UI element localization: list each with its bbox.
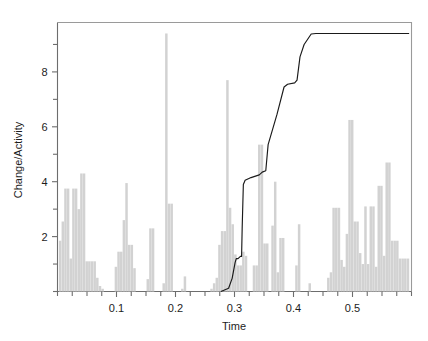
- histogram-bar: [237, 265, 239, 291]
- histogram-bar: [210, 289, 212, 292]
- histogram-bar: [184, 276, 186, 291]
- histogram-bar: [67, 189, 69, 292]
- histogram-bar: [401, 259, 403, 292]
- histogram-bar: [393, 241, 395, 292]
- x-tick-label: 0.5: [345, 302, 360, 314]
- histogram-bar: [271, 226, 273, 292]
- histogram-bar: [165, 33, 167, 291]
- histogram-bar: [327, 278, 329, 292]
- histogram-bar: [258, 145, 260, 292]
- histogram-bar: [133, 268, 135, 291]
- histogram-bar: [266, 243, 268, 291]
- histogram-bar: [245, 256, 247, 292]
- histogram-bar: [261, 145, 263, 292]
- histogram-bar: [170, 204, 172, 292]
- histogram-bar: [308, 283, 310, 291]
- histogram-bar: [372, 206, 374, 291]
- histogram-bar: [354, 222, 356, 292]
- histogram-bar: [101, 289, 103, 292]
- histogram-bar: [85, 261, 87, 291]
- y-tick-label: 6: [41, 121, 47, 133]
- bar-series: [59, 33, 409, 291]
- histogram-bar: [91, 261, 93, 291]
- histogram-bar: [162, 283, 164, 291]
- histogram-bar: [242, 252, 244, 292]
- histogram-bar: [263, 243, 265, 291]
- histogram-bar: [226, 80, 228, 291]
- x-tick-label: 0.2: [168, 302, 183, 314]
- histogram-bar: [364, 206, 366, 291]
- histogram-bar: [99, 286, 101, 291]
- histogram-bar: [59, 241, 61, 292]
- histogram-bar: [279, 238, 281, 292]
- histogram-bar: [277, 272, 279, 291]
- histogram-bar: [239, 265, 241, 291]
- histogram-bar: [83, 173, 85, 291]
- histogram-bar: [359, 253, 361, 291]
- histogram-bar: [117, 252, 119, 292]
- histogram-bar: [388, 162, 390, 291]
- histogram-bar: [70, 259, 72, 292]
- histogram-bar: [131, 245, 133, 292]
- histogram-bar: [380, 186, 382, 292]
- histogram-bar: [115, 267, 117, 292]
- histogram-bar: [351, 120, 353, 292]
- histogram-bar: [147, 279, 149, 291]
- histogram-bar: [218, 245, 220, 292]
- histogram-bar: [231, 224, 233, 291]
- x-tick-label: 0.1: [109, 302, 124, 314]
- histogram-bar: [407, 259, 409, 292]
- y-tick-label: 4: [41, 176, 47, 188]
- histogram-bar: [343, 267, 345, 292]
- histogram-bar: [213, 283, 215, 291]
- histogram-bar: [378, 186, 380, 292]
- histogram-bar: [128, 245, 130, 292]
- histogram-bar: [72, 189, 74, 292]
- histogram-bar: [168, 204, 170, 292]
- x-tick-label: 0.4: [286, 302, 301, 314]
- histogram-bar: [229, 208, 231, 292]
- histogram-bar: [298, 224, 300, 291]
- histogram-bar: [348, 120, 350, 292]
- chart-plot-area: 0.10.20.30.40.52468 Change/Activity Time: [0, 0, 428, 341]
- histogram-bar: [338, 208, 340, 292]
- histogram-bar: [149, 228, 151, 291]
- histogram-bar: [75, 189, 77, 292]
- x-axis-title: Time: [222, 320, 246, 332]
- histogram-bar: [255, 265, 257, 291]
- histogram-bar: [340, 260, 342, 292]
- histogram-bar: [335, 208, 337, 292]
- histogram-bar: [385, 162, 387, 291]
- histogram-bar: [332, 208, 334, 292]
- histogram-bar: [282, 238, 284, 292]
- histogram-bar: [93, 261, 95, 291]
- histogram-bar: [396, 241, 398, 292]
- histogram-bar: [253, 265, 255, 291]
- y-axis-title: Change/Activity: [12, 121, 24, 198]
- histogram-bar: [274, 182, 276, 292]
- x-tick-label: 0.3: [227, 302, 242, 314]
- histogram-bar: [88, 261, 90, 291]
- histogram-bar: [224, 231, 226, 291]
- histogram-bar: [181, 289, 183, 292]
- histogram-bar: [370, 206, 372, 291]
- axis-titles: Change/Activity Time: [12, 121, 246, 332]
- histogram-bar: [295, 265, 297, 291]
- histogram-bar: [96, 278, 98, 292]
- histogram-bar: [80, 173, 82, 291]
- histogram-bar: [346, 234, 348, 292]
- chart-figure: 0.10.20.30.40.52468 Change/Activity Time: [0, 0, 428, 341]
- histogram-bar: [221, 231, 223, 291]
- histogram-bar: [152, 228, 154, 291]
- histogram-bar: [362, 264, 364, 291]
- histogram-bar: [330, 272, 332, 291]
- histogram-bar: [78, 209, 80, 291]
- y-tick-label: 8: [41, 66, 47, 78]
- histogram-bar: [125, 183, 127, 291]
- histogram-bar: [375, 267, 377, 292]
- histogram-bar: [62, 222, 64, 292]
- histogram-bar: [383, 256, 385, 292]
- histogram-bar: [64, 189, 66, 292]
- histogram-bar: [123, 220, 125, 291]
- histogram-bar: [367, 264, 369, 291]
